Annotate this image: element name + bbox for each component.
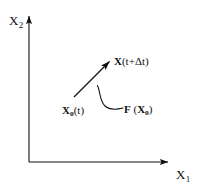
label-x-future-argument: (t+Δt) [122, 55, 149, 67]
y-axis-label: X2 [9, 14, 23, 30]
label-x-initial: Xo(t) [62, 105, 84, 118]
label-x-initial-argument: (t) [74, 104, 84, 116]
label-force-close-paren: ) [149, 103, 153, 115]
label-x-future-symbol: X [114, 55, 122, 67]
label-force-function: F (Xo) [124, 104, 153, 117]
figure-linework [0, 0, 197, 191]
label-force-argument-symbol: X [137, 103, 145, 115]
label-x-initial-symbol: X [62, 104, 70, 116]
phase-space-trajectory-figure: X2 X1 X(t+Δt) Xo(t) F (Xo) [0, 0, 197, 191]
x-axis-label-subscript: 1 [185, 174, 190, 184]
displacement-vector-arrow [74, 62, 110, 98]
y-axis-label-subscript: 2 [18, 20, 23, 30]
label-x-future: X(t+Δt) [114, 56, 149, 67]
label-force-symbol: F [124, 103, 131, 115]
x-axis-label-base: X [176, 167, 185, 182]
curved-leader-line [98, 86, 124, 110]
x-axis-label: X1 [176, 168, 190, 184]
y-axis-label-base: X [9, 13, 18, 28]
